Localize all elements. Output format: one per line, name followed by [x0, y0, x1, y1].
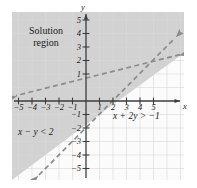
- solution-region-label-line1: Solution: [18, 26, 74, 37]
- y-axis-label: y: [81, 3, 85, 12]
- y-tick-label--4: −4: [68, 151, 81, 160]
- y-tick-label--3: −3: [68, 137, 81, 146]
- y-tick-label--2: −2: [68, 124, 81, 133]
- inequality-label-x-plus-2y: x + 2y > −1: [113, 112, 160, 122]
- x-tick-label--5: −5: [12, 103, 25, 112]
- y-tick-label-5: 5: [72, 16, 81, 25]
- inequality-label-x-minus-y: x − y < 2: [18, 128, 54, 138]
- x-tick-label-1: 1: [94, 103, 105, 112]
- inequality-graph-figure: −5 −4 −3 −2 −1 1 2 3 4 5 5 4 3 2 1 −1 −2…: [0, 0, 197, 188]
- solution-region-label-line2: region: [18, 38, 74, 49]
- x-tick-label--4: −4: [26, 103, 39, 112]
- y-tick-label--5: −5: [68, 164, 81, 173]
- y-tick-label-1: 1: [72, 70, 81, 79]
- y-tick-label-2: 2: [72, 56, 81, 65]
- x-tick-label--3: −3: [39, 103, 52, 112]
- y-tick-label--1: −1: [68, 110, 81, 119]
- x-axis-label: x: [183, 102, 187, 111]
- x-tick-label--2: −2: [53, 103, 66, 112]
